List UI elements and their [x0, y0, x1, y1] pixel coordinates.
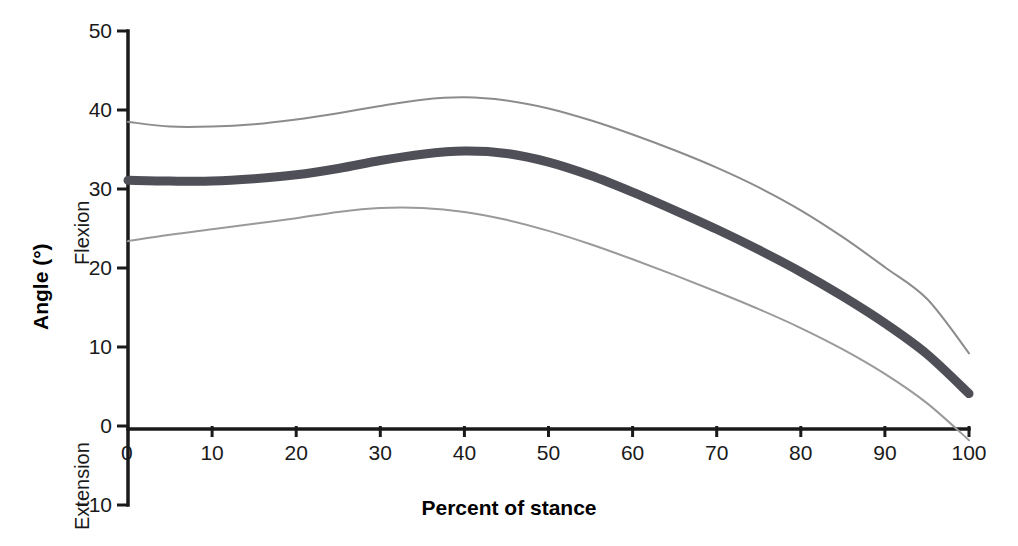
x-axis-tick-label: 60 [593, 442, 673, 463]
x-axis-tick-label: 50 [509, 442, 589, 463]
x-axis-tick-label: 90 [845, 442, 925, 463]
series-mean [128, 151, 969, 394]
x-axis-tick-label: 20 [256, 442, 336, 463]
y-axis-tick-label: 40 [40, 99, 112, 120]
gait-angle-chart: −1001020304050 102030405060708090100 0 A… [0, 0, 1018, 546]
x-axis-tick-label: 100 [929, 442, 1009, 463]
y-axis-tick-label: 10 [40, 336, 112, 357]
y-axis-title: Angle (°) [30, 243, 51, 330]
series-lower-band [128, 207, 969, 440]
x-axis-tick-label: 70 [677, 442, 757, 463]
x-axis-tick-label: 80 [761, 442, 841, 463]
series-upper-band [128, 97, 969, 353]
axes-group [117, 31, 969, 505]
y-axis-flexion-label: Flexion [72, 201, 92, 265]
y-axis-tick-label: 0 [40, 415, 112, 436]
data-series-group [128, 97, 969, 440]
x-axis-title: Percent of stance [0, 497, 1018, 518]
x-axis-tick-label: 40 [424, 442, 504, 463]
x-axis-tick-label: 30 [340, 442, 420, 463]
chart-plot-area [0, 0, 1018, 546]
y-axis-tick-label: 50 [40, 20, 112, 41]
y-axis-tick-label: 30 [40, 178, 112, 199]
x-axis-origin-label: 0 [121, 442, 133, 463]
x-axis-tick-label: 10 [172, 442, 252, 463]
